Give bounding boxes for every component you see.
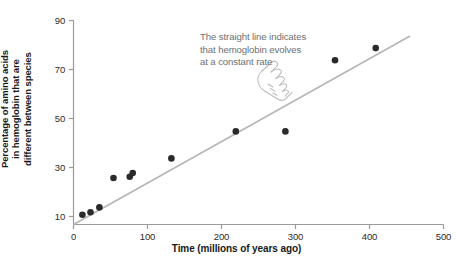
data-point	[372, 45, 379, 52]
y-axis-ticks	[69, 21, 74, 217]
y-tick-label: 50	[39, 113, 65, 124]
data-point	[282, 128, 289, 135]
y-tick-label: 10	[39, 211, 65, 222]
x-tick-label: 0	[59, 231, 89, 242]
x-axis-title: Time (millions of years ago)	[0, 243, 473, 254]
x-tick-label: 300	[281, 231, 311, 242]
chart-container: 90 70 50 30 10 0 100 200 300 400 500 Per…	[0, 0, 473, 266]
x-tick-label: 100	[133, 231, 163, 242]
data-point	[129, 170, 136, 177]
data-point	[87, 209, 94, 216]
y-tick-label: 70	[39, 64, 65, 75]
y-tick-label: 30	[39, 162, 65, 173]
data-point	[233, 128, 240, 135]
x-axis-ticks	[74, 225, 444, 230]
x-tick-label: 400	[355, 231, 385, 242]
x-tick-label: 500	[429, 231, 459, 242]
y-axis-title: Percentage of amino acids in hemoglobin …	[0, 9, 33, 209]
data-point	[96, 204, 103, 211]
data-point	[110, 175, 117, 182]
data-points	[79, 45, 379, 218]
annotation-text: The straight line indicates that hemoglo…	[200, 31, 360, 69]
y-tick-label: 90	[39, 15, 65, 26]
data-point	[168, 155, 175, 162]
data-point	[79, 211, 86, 218]
x-tick-label: 200	[207, 231, 237, 242]
